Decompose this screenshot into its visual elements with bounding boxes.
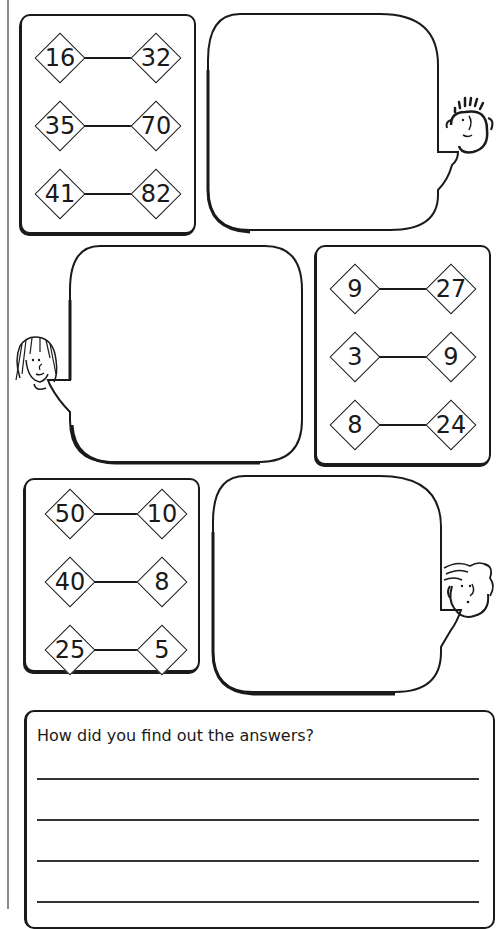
connector-line [84,125,134,127]
diamond-right: 27 [425,263,477,315]
number-pair: 40 8 [26,556,198,608]
connector-line [379,356,429,358]
answer-line-2[interactable] [37,819,479,821]
long-hair-girl-face-icon [6,330,66,400]
number-pairs-box-1: 16 32 35 70 41 82 [20,14,196,234]
number-value: 10 [136,488,188,540]
number-value: 16 [34,32,86,84]
number-pair: 8 24 [317,399,489,451]
diamond-right: 10 [136,488,188,540]
diamond-left: 40 [44,556,96,608]
number-value: 9 [329,263,381,315]
connector-line [379,288,429,290]
connector-line [84,193,134,195]
number-pair: 25 5 [26,624,198,676]
connector-line [94,513,140,515]
number-pair: 3 9 [317,331,489,383]
diamond-right: 5 [136,624,188,676]
number-pair: 9 27 [317,263,489,315]
number-value: 27 [425,263,477,315]
answer-box: How did you find out the answers? [24,710,495,929]
diamond-right: 82 [130,168,182,220]
number-value: 9 [425,331,477,383]
connector-line [84,57,134,59]
answer-line-4[interactable] [37,901,479,903]
number-value: 35 [34,100,86,152]
diamond-left: 9 [329,263,381,315]
number-value: 40 [44,556,96,608]
number-value: 24 [425,399,477,451]
spiky-hair-boy-face-icon [443,90,498,160]
answer-line-3[interactable] [37,860,479,862]
number-value: 8 [329,399,381,451]
number-pairs-box-2: 9 27 3 9 8 24 [315,245,491,465]
diamond-right: 9 [425,331,477,383]
number-pair: 35 70 [22,100,194,152]
diamond-left: 35 [34,100,86,152]
diamond-left: 25 [44,624,96,676]
diamond-left: 3 [329,331,381,383]
diamond-right: 24 [425,399,477,451]
connector-line [94,581,140,583]
answer-line-1[interactable] [37,778,479,780]
number-pair: 50 10 [26,488,198,540]
connector-line [94,649,140,651]
number-value: 70 [130,100,182,152]
diamond-right: 8 [136,556,188,608]
number-value: 25 [44,624,96,676]
number-value: 82 [130,168,182,220]
question-label: How did you find out the answers? [37,726,314,745]
diamond-left: 50 [44,488,96,540]
connector-line [379,424,429,426]
number-value: 32 [130,32,182,84]
number-value: 50 [44,488,96,540]
diamond-left: 8 [329,399,381,451]
diamond-left: 41 [34,168,86,220]
number-value: 41 [34,168,86,220]
diamond-left: 16 [34,32,86,84]
number-value: 5 [136,624,188,676]
diamond-right: 32 [130,32,182,84]
number-pairs-box-3: 50 10 40 8 25 5 [24,478,200,672]
number-value: 8 [136,556,188,608]
number-pair: 41 82 [22,168,194,220]
number-value: 3 [329,331,381,383]
diamond-right: 70 [130,100,182,152]
wavy-hair-boy-face-icon [440,556,498,626]
number-pair: 16 32 [22,32,194,84]
